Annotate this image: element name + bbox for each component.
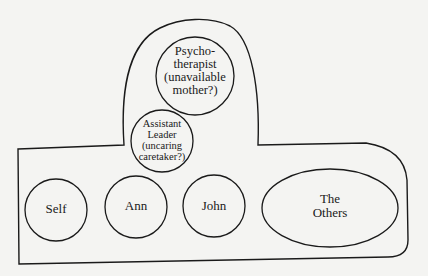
assistant-leader-label: Assistant Leader (uncaring caretaker?) [131, 118, 193, 162]
diagram-shapes [0, 0, 428, 276]
john-label: John [184, 199, 244, 213]
psychotherapist-label: Psycho- therapist (unavailable mother?) [157, 45, 233, 98]
self-label: Self [26, 202, 86, 216]
ann-label: Ann [106, 199, 166, 213]
others-label: The Others [290, 192, 370, 219]
diagram-canvas: Psycho- therapist (unavailable mother?) … [0, 0, 428, 276]
